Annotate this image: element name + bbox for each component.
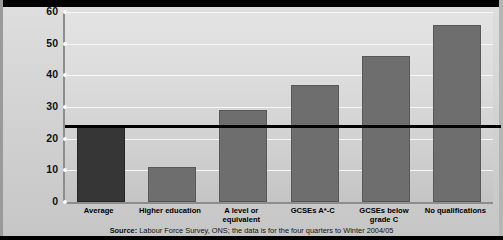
gridline	[65, 107, 493, 108]
y-axis-tick-label: 20	[30, 132, 58, 144]
source-note-prefix: Source:	[110, 226, 138, 235]
chart-figure: Proportion of employed people aged 25 to…	[0, 0, 503, 240]
top-border	[0, 0, 503, 7]
bar	[433, 25, 481, 202]
y-axis-tick-mark	[63, 200, 67, 204]
gridline	[65, 44, 493, 45]
y-axis-tick-mark	[63, 73, 67, 77]
y-axis-tick-mark	[63, 168, 67, 172]
gridline	[65, 75, 493, 76]
gridline	[65, 12, 493, 13]
bottom-border	[0, 236, 503, 240]
source-note-text: Labour Force Survey, ONS; the data is fo…	[137, 226, 393, 235]
bar	[219, 110, 267, 202]
x-axis-tick-label: Average	[63, 206, 134, 215]
bar	[148, 167, 196, 202]
right-border	[499, 0, 503, 240]
y-axis-tick-label: 10	[30, 163, 58, 175]
gridline	[65, 170, 493, 171]
y-axis-tick-mark	[63, 137, 67, 141]
y-axis-tick-mark	[63, 105, 67, 109]
x-axis-tick-label: A level or equivalent	[206, 206, 277, 224]
x-axis-tick-label: Higher education	[134, 206, 205, 215]
bar	[77, 126, 125, 202]
x-axis-line	[65, 202, 493, 204]
y-axis-tick-label: 0	[30, 195, 58, 207]
plot-area	[63, 12, 493, 202]
x-axis-tick-label: GCSEs A*-C	[277, 206, 348, 215]
bar	[291, 85, 339, 202]
y-axis-tick-mark	[63, 42, 67, 46]
y-axis-tick-label: 40	[30, 68, 58, 80]
average-reference-line	[65, 125, 501, 128]
gridline	[65, 139, 493, 140]
x-axis-tick-label: No qualifications	[420, 206, 491, 215]
y-axis-tick-mark	[63, 10, 67, 14]
y-axis-tick-label: 30	[30, 100, 58, 112]
y-axis-tick-label: 60	[30, 5, 58, 17]
source-note: Source: Labour Force Survey, ONS; the da…	[0, 226, 503, 235]
bar	[362, 56, 410, 202]
x-axis-tick-label: GCSEs below grade C	[348, 206, 419, 224]
y-axis-tick-label: 50	[30, 37, 58, 49]
